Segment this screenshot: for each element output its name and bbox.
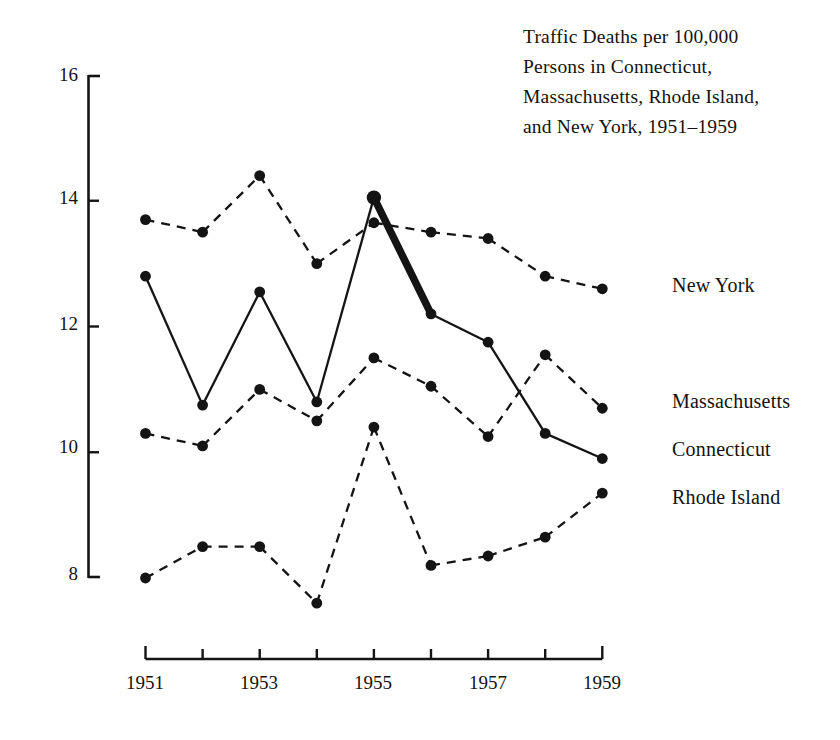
segment-massachusetts [203, 389, 260, 446]
traffic-deaths-line-chart: Traffic Deaths per 100,000 Persons in Co… [0, 0, 840, 740]
segment-rhode-island [374, 427, 431, 565]
title-line-1: Traffic Deaths per 100,000 [523, 22, 833, 52]
data-point-massachusetts-1952 [197, 441, 208, 452]
data-point-connecticut-1953 [254, 287, 265, 298]
segment-new-york [260, 176, 317, 264]
data-point-connecticut-1955 [367, 190, 381, 204]
segment-connecticut [146, 276, 203, 405]
segment-new-york [146, 220, 203, 233]
segment-new-york [203, 176, 260, 233]
segment-massachusetts [545, 355, 602, 408]
segment-connecticut [317, 198, 374, 402]
y-axis-tick-label-10: 10 [38, 436, 78, 458]
data-point-new-york-1959 [597, 283, 608, 294]
chart-title: Traffic Deaths per 100,000 Persons in Co… [523, 22, 833, 142]
y-axis-tick-label-8: 8 [38, 563, 78, 585]
data-point-rhode-island-1956 [426, 560, 437, 571]
segment-massachusetts [488, 355, 545, 437]
segment-massachusetts [431, 386, 488, 436]
segment-massachusetts [260, 389, 317, 420]
data-point-new-york-1958 [540, 271, 551, 282]
data-point-new-york-1951 [140, 214, 151, 225]
segment-emphasis-connecticut [374, 198, 431, 314]
segment-rhode-island [488, 537, 545, 556]
data-point-massachusetts-1951 [140, 428, 151, 439]
y-axis-tick-label-12: 12 [38, 313, 78, 335]
series-label-massachusetts: Massachusetts [672, 390, 790, 413]
segment-connecticut [488, 342, 545, 433]
segment-rhode-island [545, 493, 602, 537]
x-axis-tick-label-1953: 1953 [229, 672, 289, 694]
data-point-connecticut-1958 [540, 428, 551, 439]
x-axis-tick-label-1951: 1951 [115, 672, 175, 694]
segment-massachusetts [146, 433, 203, 446]
segment-massachusetts [374, 358, 431, 386]
data-point-massachusetts-1959 [597, 403, 608, 414]
data-point-massachusetts-1957 [483, 431, 494, 442]
segment-new-york [374, 223, 431, 232]
segment-new-york [545, 276, 602, 289]
x-axis-tick-label-1955: 1955 [343, 672, 403, 694]
data-point-massachusetts-1955 [369, 353, 380, 364]
title-line-2: Persons in Connecticut, [523, 52, 833, 82]
x-axis-tick-label-1957: 1957 [458, 672, 518, 694]
data-point-new-york-1956 [426, 227, 437, 238]
data-point-rhode-island-1957 [483, 551, 494, 562]
segment-rhode-island [431, 556, 488, 565]
y-axis-tick-label-14: 14 [38, 187, 78, 209]
data-point-rhode-island-1951 [140, 573, 151, 584]
segment-new-york [488, 238, 545, 276]
data-point-connecticut-1959 [597, 453, 608, 464]
data-point-massachusetts-1954 [311, 415, 322, 426]
x-axis-tick-label-1959: 1959 [572, 672, 632, 694]
data-point-new-york-1952 [197, 227, 208, 238]
segment-connecticut [431, 314, 488, 342]
data-point-rhode-island-1952 [197, 541, 208, 552]
data-point-connecticut-1951 [140, 271, 151, 282]
data-point-new-york-1955 [369, 217, 380, 228]
data-point-new-york-1957 [483, 233, 494, 244]
data-point-connecticut-1957 [483, 337, 494, 348]
segment-rhode-island [317, 427, 374, 603]
data-point-rhode-island-1955 [369, 422, 380, 433]
series-label-connecticut: Connecticut [672, 438, 771, 461]
series-label-new-york: New York [672, 274, 755, 297]
data-point-connecticut-1952 [197, 400, 208, 411]
data-point-connecticut-1954 [311, 397, 322, 408]
segment-connecticut [545, 433, 602, 458]
data-point-rhode-island-1959 [597, 488, 608, 499]
series-label-rhode-island: Rhode Island [672, 486, 781, 509]
title-line-4: and New York, 1951–1959 [523, 112, 833, 142]
data-point-rhode-island-1958 [540, 532, 551, 543]
data-point-massachusetts-1953 [254, 384, 265, 395]
series-new-york [140, 170, 608, 294]
segment-new-york [431, 232, 488, 238]
segment-rhode-island [260, 547, 317, 604]
data-point-massachusetts-1958 [540, 349, 551, 360]
data-point-new-york-1953 [254, 170, 265, 181]
series-massachusetts [140, 349, 608, 451]
data-point-massachusetts-1956 [426, 381, 437, 392]
segment-connecticut [203, 292, 260, 405]
title-line-3: Massachusetts, Rhode Island, [523, 82, 833, 112]
segment-rhode-island [146, 547, 203, 578]
y-axis-tick-label-16: 16 [38, 64, 78, 86]
data-point-new-york-1954 [311, 258, 322, 269]
data-point-rhode-island-1954 [311, 598, 322, 609]
data-point-rhode-island-1953 [254, 541, 265, 552]
segment-connecticut [260, 292, 317, 402]
series-rhode-island [140, 422, 608, 609]
data-point-connecticut-1956 [426, 309, 437, 320]
